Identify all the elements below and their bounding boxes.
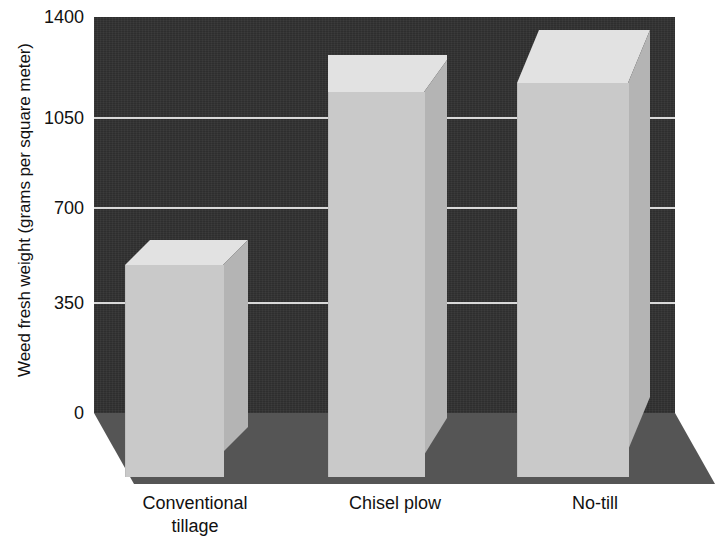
- bar-side-face: [628, 30, 650, 450]
- x-label-chisel-plow: Chisel plow: [310, 492, 480, 515]
- bar-front-face: [517, 83, 629, 477]
- y-axis-tick-labels: 1400 1050 700 350 0: [20, 0, 84, 545]
- y-tick-700: 700: [20, 198, 84, 219]
- x-label-no-till: No-till: [520, 492, 670, 515]
- bar-chart-figure: Weed fresh weight (grams per square mete…: [0, 0, 715, 545]
- bar-conventional-tillage[interactable]: [125, 240, 248, 477]
- bar-chisel-plow[interactable]: [328, 55, 447, 477]
- bar-top-face: [517, 30, 650, 83]
- y-tick-1400: 1400: [20, 7, 84, 28]
- y-tick-350: 350: [20, 293, 84, 314]
- bar-front-face: [328, 92, 425, 477]
- y-tick-0: 0: [20, 403, 84, 424]
- bar-no-till[interactable]: [517, 30, 650, 477]
- bar-side-face: [424, 55, 447, 455]
- bar-front-face: [125, 265, 224, 477]
- cropped-title-strip: [94, 0, 675, 11]
- y-tick-1050: 1050: [20, 108, 84, 129]
- bar-side-face: [223, 240, 248, 452]
- x-label-conventional-tillage: Conventional tillage: [95, 492, 295, 538]
